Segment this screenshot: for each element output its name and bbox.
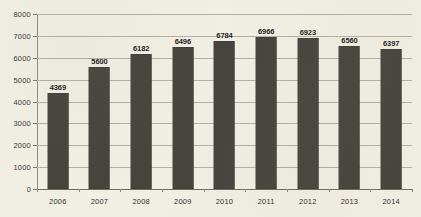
x-tick-mark	[79, 189, 80, 192]
x-axis-tick-label: 2006	[49, 197, 67, 206]
x-tick-mark	[370, 189, 371, 192]
y-axis-tick-label: 6000	[14, 53, 32, 62]
bar-group: 6923	[287, 14, 329, 189]
x-axis-tick-label: 2012	[299, 197, 317, 206]
bar	[214, 41, 235, 189]
bars-layer: 436956006182649667846966692365606397	[37, 14, 412, 189]
bar	[381, 49, 402, 189]
x-tick-mark	[204, 189, 205, 192]
x-axis-tick-label: 2007	[91, 197, 109, 206]
gridline	[37, 189, 412, 190]
x-tick-mark	[120, 189, 121, 192]
x-tick-mark	[162, 189, 163, 192]
bar-value-label: 6923	[300, 28, 316, 37]
x-axis-tick-label: 2009	[174, 197, 192, 206]
x-axis-tick-label: 2014	[382, 197, 400, 206]
y-axis-tick-label: 1000	[14, 163, 32, 172]
y-axis-tick-label: 5000	[14, 75, 32, 84]
y-axis-tick-label: 8000	[14, 10, 32, 19]
bar	[256, 37, 277, 189]
bar-value-label: 6182	[133, 44, 149, 53]
bar-group: 6397	[370, 14, 412, 189]
bar-group: 6966	[245, 14, 287, 189]
bar-value-label: 6397	[383, 39, 399, 48]
bar	[339, 46, 360, 190]
bar-group: 6182	[120, 14, 162, 189]
x-tick-mark	[412, 189, 413, 192]
bar-value-label: 5600	[91, 57, 107, 66]
bar	[172, 47, 193, 189]
bar-chart: 010002000300040005000600070008000 436956…	[0, 0, 421, 217]
x-axis-tick-label: 2013	[341, 197, 359, 206]
y-axis-tick-label: 2000	[14, 141, 32, 150]
bar-group: 6784	[204, 14, 246, 189]
y-axis-tick-label: 7000	[14, 31, 32, 40]
x-tick-mark	[287, 189, 288, 192]
x-tick-mark	[329, 189, 330, 192]
bar-value-label: 4369	[50, 83, 66, 92]
bar	[131, 54, 152, 189]
y-axis-tick-label: 0	[27, 185, 31, 194]
bar-group: 4369	[37, 14, 79, 189]
y-axis-labels: 010002000300040005000600070008000	[0, 14, 31, 189]
bar	[89, 67, 110, 190]
x-tick-mark	[37, 189, 38, 192]
bar-value-label: 6784	[216, 31, 232, 40]
x-tick-mark	[245, 189, 246, 192]
plot-area: 436956006182649667846966692365606397	[37, 14, 412, 189]
bar-value-label: 6966	[258, 27, 274, 36]
bar	[297, 38, 318, 189]
bar-group: 6496	[162, 14, 204, 189]
bar-group: 5600	[79, 14, 121, 189]
x-axis-tick-label: 2010	[216, 197, 234, 206]
x-axis-labels: 200620072008200920102011201220132014	[37, 192, 412, 212]
y-axis-tick-label: 3000	[14, 119, 32, 128]
bar-value-label: 6496	[175, 37, 191, 46]
bar	[47, 93, 68, 189]
bar-group: 6560	[329, 14, 371, 189]
bar-value-label: 6560	[341, 36, 357, 45]
y-axis-tick-label: 4000	[14, 97, 32, 106]
x-axis-tick-label: 2011	[258, 197, 275, 206]
x-axis-tick-label: 2008	[132, 197, 150, 206]
